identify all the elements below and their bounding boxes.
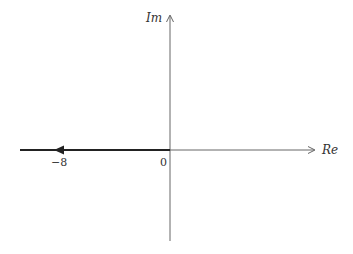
complex-plane-diagram: Im Re 0 −8 (0, 0, 353, 254)
real-axis-label: Re (321, 143, 338, 157)
origin-label: 0 (160, 156, 167, 169)
locus-direction-arrow-icon (54, 146, 64, 155)
root-locus-branch (20, 146, 170, 155)
imaginary-axis-label: Im (145, 11, 162, 25)
imaginary-axis (167, 15, 174, 241)
tick-label-neg-8: −8 (51, 156, 67, 169)
